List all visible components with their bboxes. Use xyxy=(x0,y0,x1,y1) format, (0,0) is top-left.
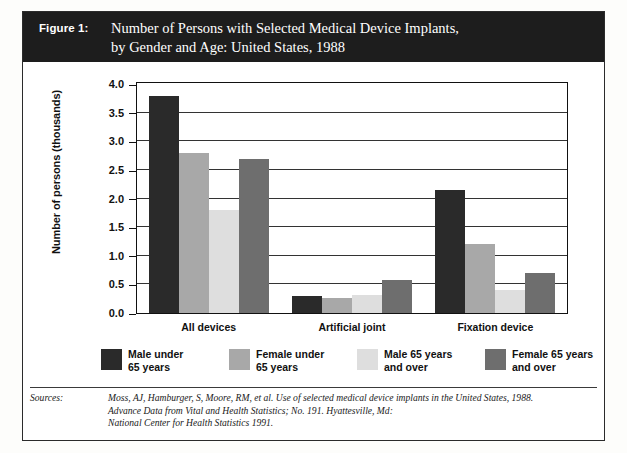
legend-item-label: Female 65 years and over xyxy=(512,348,593,373)
y-axis-title: Number of persons (thousands) xyxy=(50,77,62,267)
y-axis-tick-label: 3.5 xyxy=(90,107,124,119)
source-line-2: Advance Data from Vital and Health Stati… xyxy=(108,405,533,418)
bar[interactable] xyxy=(179,153,209,313)
bar-group: Artificial joint xyxy=(280,83,423,313)
bar[interactable] xyxy=(149,96,179,313)
y-axis-tick-mark xyxy=(129,314,136,315)
figure-title-line-2: by Gender and Age: United States, 1988 xyxy=(111,38,604,57)
bar-group: Fixation device xyxy=(424,83,567,313)
y-axis-tick-mark xyxy=(129,285,136,286)
y-axis: 0.00.51.01.52.02.53.03.54.0 xyxy=(83,82,136,314)
legend-swatch-female-under-65 xyxy=(229,349,250,370)
bar[interactable] xyxy=(465,244,495,313)
figure-title-banner: Figure 1: Number of Persons with Selecte… xyxy=(23,12,604,62)
y-axis-tick-label: 3.0 xyxy=(90,135,124,147)
legend-item[interactable]: Female 65 years and over xyxy=(485,348,613,384)
source-line-1: Moss, AJ, Hamburger, S, Moore, RM, et al… xyxy=(108,392,533,405)
figure-number-label: Figure 1: xyxy=(23,12,111,34)
figure-title-line-1: Number of Persons with Selected Medical … xyxy=(111,19,604,38)
legend-item-label: Male 65 years and over xyxy=(384,348,452,373)
bar[interactable] xyxy=(352,295,382,313)
y-axis-tick-mark xyxy=(129,85,136,86)
bar[interactable] xyxy=(239,159,269,313)
chart-area: Number of persons (thousands) 0.00.51.01… xyxy=(23,62,604,342)
figure-title: Number of Persons with Selected Medical … xyxy=(111,12,604,57)
legend-item-label: Female under 65 years xyxy=(256,348,324,373)
y-axis-tick-label: 2.5 xyxy=(90,164,124,176)
y-axis-tick-mark xyxy=(129,256,136,257)
figure-page: Figure 1: Number of Persons with Selecte… xyxy=(0,0,627,453)
y-axis-tick-mark xyxy=(129,228,136,229)
bar-group: All devices xyxy=(137,83,280,313)
legend-item-label: Male under 65 years xyxy=(128,348,183,373)
bar[interactable] xyxy=(382,280,412,313)
source-note: Sources: Moss, AJ, Hamburger, S, Moore, … xyxy=(30,392,600,430)
legend-item[interactable]: Male under 65 years xyxy=(101,348,229,384)
bar[interactable] xyxy=(292,296,322,313)
y-axis-tick-mark xyxy=(129,171,136,172)
y-axis-tick-mark xyxy=(129,113,136,114)
legend-swatch-male-under-65 xyxy=(101,349,122,370)
source-text: Moss, AJ, Hamburger, S, Moore, RM, et al… xyxy=(108,392,533,430)
legend-swatch-female-65-over xyxy=(485,349,506,370)
legend-item[interactable]: Female under 65 years xyxy=(229,348,357,384)
x-axis-category-label: Artificial joint xyxy=(280,321,423,333)
x-axis-category-label: All devices xyxy=(137,321,280,333)
y-axis-tick-mark xyxy=(129,142,136,143)
legend-swatch-male-65-over xyxy=(357,349,378,370)
plot-area: All devicesArtificial jointFixation devi… xyxy=(136,82,568,314)
bar-groups: All devicesArtificial jointFixation devi… xyxy=(137,83,567,313)
legend-item[interactable]: Male 65 years and over xyxy=(357,348,485,384)
bar[interactable] xyxy=(322,298,352,313)
bar[interactable] xyxy=(525,273,555,313)
bar[interactable] xyxy=(435,190,465,313)
bar[interactable] xyxy=(495,290,525,313)
source-line-3: National Center for Health Statistics 19… xyxy=(108,417,533,430)
y-axis-tick-label: 1.5 xyxy=(90,221,124,233)
x-axis-category-label: Fixation device xyxy=(424,321,567,333)
source-divider xyxy=(30,387,597,388)
y-axis-tick-mark xyxy=(129,199,136,200)
source-label: Sources: xyxy=(30,392,108,430)
y-axis-tick-label: 2.0 xyxy=(90,193,124,205)
bar[interactable] xyxy=(209,210,239,313)
y-axis-tick-label: 4.0 xyxy=(90,78,124,90)
y-axis-tick-label: 1.0 xyxy=(90,250,124,262)
y-axis-tick-label: 0.0 xyxy=(90,307,124,319)
y-axis-tick-label: 0.5 xyxy=(90,278,124,290)
chart-legend: Male under 65 yearsFemale under 65 years… xyxy=(23,348,604,384)
